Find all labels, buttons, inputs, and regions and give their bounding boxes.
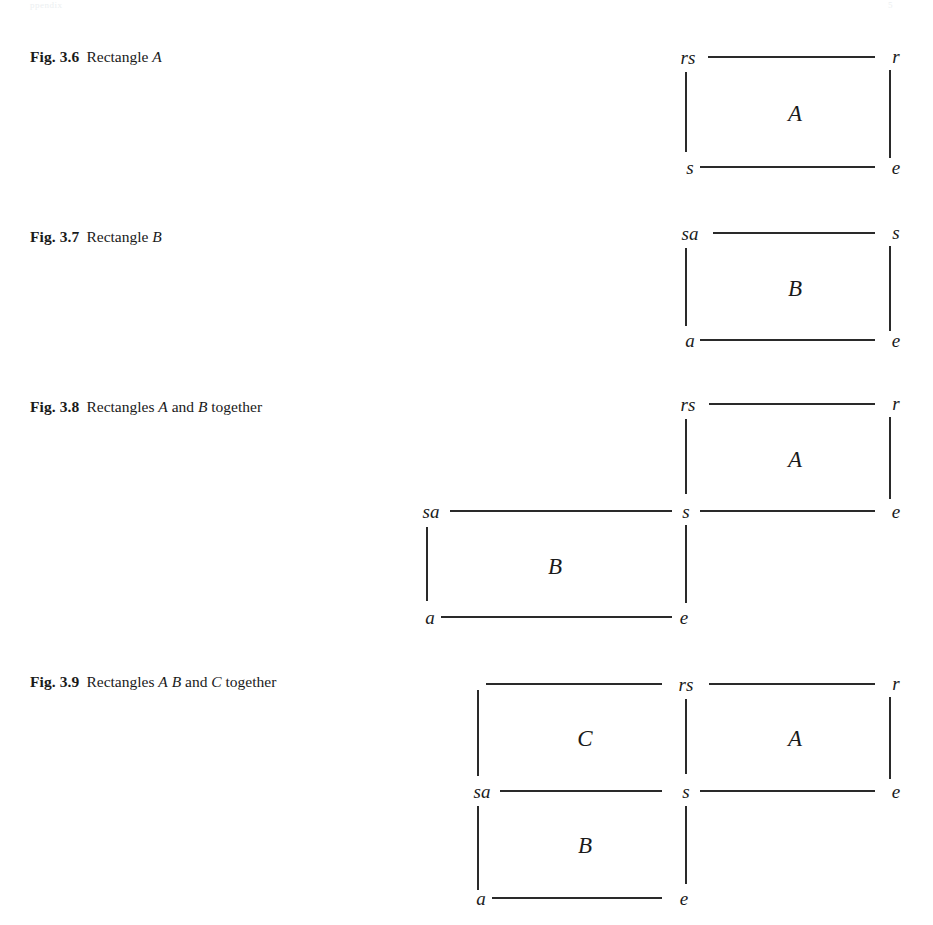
- fig37-edge-bottom: [700, 339, 875, 341]
- fig39-region-B: B: [578, 834, 592, 857]
- fig39-vertex-bottom-left: a: [476, 889, 486, 908]
- fig38-vertex-A-bottom-right: e: [892, 502, 900, 521]
- fig39-vertex-top-center: rs: [679, 675, 694, 694]
- fig36-edge-top: [708, 56, 875, 58]
- fig38-region-B: B: [548, 555, 562, 578]
- fig38-A-edge-bottom: [700, 510, 875, 512]
- fig39-vertex-mid-center: s: [682, 782, 689, 801]
- fig39-edge-top-right: [709, 683, 875, 685]
- fig36-vertex-bottom-left: s: [686, 158, 693, 177]
- figure-title-3-9-c: together: [226, 673, 277, 690]
- fig38-A-edge-top: [709, 403, 875, 405]
- fig36-region-A: A: [788, 102, 802, 125]
- fig38-vertex-B-top-left: sa: [423, 502, 440, 521]
- fig38-A-edge-left: [685, 419, 687, 494]
- figure-title-3-9-a: Rectangles: [86, 673, 154, 690]
- fig38-vertex-B-bottom-left: a: [425, 608, 435, 627]
- fig36-edge-right: [889, 70, 891, 158]
- figure-title-3-6: Rectangle: [86, 48, 148, 65]
- fig37-edge-left: [685, 248, 687, 326]
- fig37-vertex-top-right: s: [892, 223, 899, 242]
- figure-title-3-9-sym-a: A: [158, 673, 167, 690]
- figure-title-3-9-sym-b: B: [172, 673, 181, 690]
- fig36-vertex-top-right: r: [892, 47, 899, 66]
- figure-title-3-8-c: together: [211, 398, 262, 415]
- fig37-vertex-bottom-left: a: [685, 331, 695, 350]
- figure-number-3-7: Fig. 3.7: [30, 228, 79, 245]
- fig39-vertex-mid-left: sa: [474, 782, 491, 801]
- fig37-edge-right: [889, 246, 891, 331]
- fig38-B-edge-right: [685, 525, 687, 603]
- figure-title-3-6-sym: A: [152, 48, 161, 65]
- figure-number-3-9: Fig. 3.9: [30, 673, 79, 690]
- fig39-edge-center-lower: [685, 806, 687, 884]
- fig37-edge-top: [713, 232, 875, 234]
- figure-caption-3-9: Fig. 3.9Rectangles A B and C together: [30, 671, 330, 692]
- fig36-edge-bottom: [700, 166, 875, 168]
- figure-title-3-9-sym-c: C: [211, 673, 221, 690]
- fig36-edge-left: [685, 72, 687, 152]
- figure-title-3-8-sym-a: A: [158, 398, 167, 415]
- figure-caption-3-8: Fig. 3.8Rectangles A and B together: [30, 396, 330, 417]
- fig39-edge-top-left: [486, 683, 662, 685]
- fig39-vertex-top-right: r: [892, 674, 899, 693]
- figure-title-3-9-b: and: [185, 673, 207, 690]
- figure-caption-3-7: Fig. 3.7Rectangle B: [30, 226, 330, 247]
- figure-number-3-6: Fig. 3.6: [30, 48, 79, 65]
- figure-number-3-8: Fig. 3.8: [30, 398, 79, 415]
- page-header-left: ppendix: [30, 0, 63, 10]
- figure-title-3-7: Rectangle: [86, 228, 148, 245]
- fig38-vertex-B-bottom-right: e: [680, 608, 688, 627]
- fig38-vertex-shared-s: s: [682, 502, 689, 521]
- fig39-region-A: A: [788, 727, 802, 750]
- figure-title-3-8-sym-b: B: [198, 398, 207, 415]
- fig39-edge-mid-right: [700, 790, 875, 792]
- fig39-edge-center-upper: [685, 699, 687, 774]
- fig37-region-B: B: [788, 277, 802, 300]
- fig36-vertex-top-left: rs: [681, 48, 696, 67]
- fig39-vertex-bottom-center: e: [680, 889, 688, 908]
- page-header-right: 5: [888, 0, 893, 10]
- fig38-region-A: A: [788, 448, 802, 471]
- fig38-B-edge-top: [450, 510, 672, 512]
- fig37-vertex-bottom-right: e: [892, 331, 900, 350]
- fig38-A-edge-right: [889, 417, 891, 499]
- fig39-edge-left-lower: [477, 806, 479, 890]
- fig39-edge-bottom: [492, 897, 662, 899]
- figure-caption-3-6: Fig. 3.6Rectangle A: [30, 46, 330, 67]
- fig39-edge-mid-left: [500, 790, 662, 792]
- figures-diagram-area: rs r s e A sa s a e B rs r s e sa a e A …: [0, 0, 933, 925]
- fig39-vertex-mid-right: e: [892, 782, 900, 801]
- figure-title-3-8-b: and: [172, 398, 194, 415]
- fig38-B-edge-bottom: [441, 616, 672, 618]
- fig39-region-C: C: [577, 727, 592, 750]
- figure-title-3-7-sym: B: [152, 228, 161, 245]
- fig39-edge-right: [889, 697, 891, 779]
- fig38-vertex-A-top-right: r: [892, 394, 899, 413]
- fig39-edge-left-upper: [477, 690, 479, 776]
- figure-title-3-8-a: Rectangles: [86, 398, 154, 415]
- fig38-vertex-A-top-left: rs: [681, 395, 696, 414]
- fig37-vertex-top-left: sa: [682, 224, 699, 243]
- fig36-vertex-bottom-right: e: [892, 158, 900, 177]
- fig38-B-edge-left: [426, 527, 428, 601]
